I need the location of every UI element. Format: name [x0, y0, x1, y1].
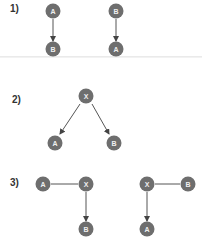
node-label: B — [83, 226, 88, 233]
diagram-canvas: ABBAXABAXBXBA — [0, 0, 202, 242]
node-x: X — [79, 177, 94, 192]
node-x: X — [79, 89, 94, 104]
node-a: A — [109, 42, 124, 57]
node-label: A — [52, 140, 57, 147]
directed-edge-arrow — [60, 104, 80, 134]
node-a: A — [48, 136, 63, 151]
node-b: B — [181, 177, 196, 192]
node-label: A — [50, 8, 55, 15]
node-b: B — [109, 4, 124, 19]
node-a: A — [140, 222, 155, 237]
node-label: X — [145, 181, 150, 188]
node-label: A — [144, 226, 149, 233]
node-label: B — [113, 8, 118, 15]
node-b: B — [107, 136, 122, 151]
node-label: B — [50, 46, 55, 53]
directed-edge-arrow — [92, 104, 109, 134]
node-x: X — [140, 177, 155, 192]
node-label: X — [84, 93, 89, 100]
node-a: A — [46, 4, 61, 19]
node-b: B — [79, 222, 94, 237]
node-label: A — [113, 46, 118, 53]
node-label: A — [40, 181, 45, 188]
causal-diagrams-figure: 1) 2) 3) ABBAXABAXBXBA — [0, 0, 202, 242]
node-label: B — [185, 181, 190, 188]
node-b: B — [46, 42, 61, 57]
node-a: A — [36, 177, 51, 192]
node-label: B — [111, 140, 116, 147]
node-label: X — [84, 181, 89, 188]
